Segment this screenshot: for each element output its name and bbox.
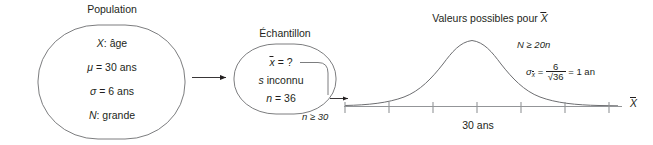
- population-text-age: : âge: [104, 37, 127, 49]
- axis-label-overline: [630, 97, 636, 98]
- sigma-subscript-overline: [532, 71, 534, 72]
- population-text-mean: = 30 ans: [96, 61, 137, 73]
- xbar-connector-curve: [300, 63, 328, 96]
- distribution-title-overline: [541, 12, 547, 13]
- distribution-title-symbol-xbar: X: [541, 12, 548, 24]
- axis-label-symbol-xbar: X: [630, 97, 637, 109]
- sample-line-s: s inconnu: [259, 75, 304, 86]
- distribution-title: Valeurs possibles pour X: [432, 13, 547, 24]
- sample-text-n: = 36: [275, 92, 296, 104]
- population-title: Population: [87, 4, 137, 15]
- population-line-variable: X: âge: [97, 38, 127, 49]
- standard-error-result: = 1 an: [568, 66, 595, 77]
- standard-error-formula: σx = 6 √36 = 1 an: [526, 62, 595, 84]
- xbar-overline: [269, 56, 273, 57]
- distribution-title-text: Valeurs possibles pour: [432, 12, 537, 24]
- population-line-sigma: σ = 6 ans: [90, 86, 134, 97]
- population-text-size: : grande: [97, 109, 136, 121]
- sample-line-xbar: x = ?: [269, 57, 292, 68]
- sample-text-xbar: = ?: [278, 56, 293, 68]
- population-symbol-sigma: σ: [90, 85, 96, 97]
- standard-error-numerator: 6: [546, 62, 566, 72]
- standard-error-denominator: √36: [546, 71, 566, 83]
- sample-symbol-s: s: [259, 74, 264, 86]
- population-size-condition: N ≥ 20n: [517, 40, 550, 50]
- population-text-sigma: = 6 ans: [99, 85, 134, 97]
- standard-error-sigma-subscript: x: [532, 71, 535, 78]
- population-symbol-mu: μ: [87, 61, 93, 73]
- sampling-distribution-figure: Population X: âge μ = 30 ans σ = 6 ans N…: [0, 0, 653, 145]
- population-symbol-N: N: [89, 109, 97, 121]
- standard-error-fraction: 6 √36: [546, 62, 566, 84]
- sample-symbol-xbar: x: [269, 56, 274, 68]
- sample-symbol-n: n: [266, 92, 272, 104]
- sample-title: Échantillon: [259, 28, 310, 39]
- population-symbol-X: X: [97, 37, 104, 49]
- distribution-axis-label: X: [630, 98, 637, 109]
- sample-text-s: inconnu: [267, 74, 304, 86]
- population-line-size: N: grande: [89, 110, 135, 121]
- distribution-center-label: 30 ans: [462, 120, 494, 131]
- sample-size-condition: n ≥ 30: [302, 112, 328, 122]
- standard-error-equals: =: [538, 66, 544, 77]
- sample-line-n: n = 36: [266, 93, 296, 104]
- population-line-mean: μ = 30 ans: [87, 62, 136, 73]
